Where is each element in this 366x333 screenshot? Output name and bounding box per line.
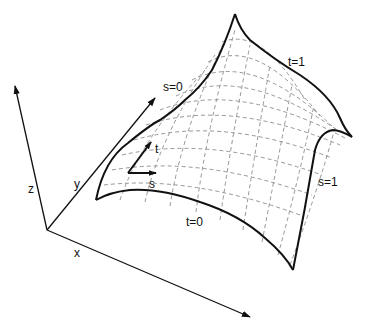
s-tangent-label: s xyxy=(149,177,155,191)
label-s1: s=1 xyxy=(318,175,338,189)
label-t0: t=0 xyxy=(186,215,203,229)
t-tangent-arrow xyxy=(128,142,151,173)
edge-s1 xyxy=(293,130,352,270)
x-axis-label: x xyxy=(74,246,80,260)
edge-s0 xyxy=(96,14,235,200)
z-axis xyxy=(15,86,47,230)
surface-boundary xyxy=(96,14,352,270)
y-axis-label: y xyxy=(74,177,80,191)
label-s0: s=0 xyxy=(163,80,183,94)
label-t1: t=1 xyxy=(288,55,305,69)
surface-grid xyxy=(104,30,345,265)
coordinate-axes: z y x xyxy=(15,86,250,317)
y-axis xyxy=(47,98,155,230)
x-axis xyxy=(47,230,250,317)
parametric-surface-diagram: z y x t s xyxy=(0,0,366,333)
z-axis-label: z xyxy=(28,182,34,196)
edge-t0 xyxy=(96,190,293,270)
